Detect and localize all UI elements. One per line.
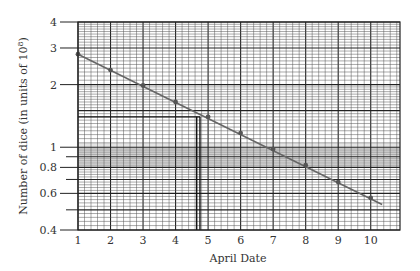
y-tick-label: 0.8 (40, 161, 58, 174)
y-tick-label: 1 (50, 141, 57, 154)
y-tick-label: 4 (50, 16, 57, 29)
data-series (76, 52, 383, 205)
data-point-marker (108, 68, 113, 73)
x-tick-label: 1 (75, 234, 82, 247)
data-point-marker (173, 100, 178, 105)
x-axis-title: April Date (208, 252, 266, 265)
data-point-marker (141, 83, 146, 88)
x-tick-label: 7 (270, 234, 277, 247)
x-tick-label: 9 (335, 234, 342, 247)
x-tick-label: 3 (140, 234, 147, 247)
data-point-marker (303, 163, 308, 168)
x-tick-label: 4 (172, 234, 179, 247)
dice-decay-chart: 43210.80.60.4 12345678910 April Date Num… (0, 0, 420, 271)
data-point-marker (271, 147, 276, 152)
plot-border (78, 22, 400, 230)
data-point-marker (368, 196, 373, 201)
shaded-band (78, 143, 400, 168)
data-point-marker (238, 131, 243, 136)
x-axis-ticks: 12345678910 (75, 234, 378, 247)
reference-lines (78, 117, 200, 230)
y-tick-label: 2 (50, 79, 57, 92)
y-tick-label: 0.4 (40, 224, 58, 237)
y-tick-label: 0.6 (40, 187, 58, 200)
x-tick-label: 8 (302, 234, 309, 247)
x-tick-label: 10 (364, 234, 378, 247)
x-tick-label: 2 (107, 234, 114, 247)
y-axis-title: Number of dice (in units of 108) (16, 37, 30, 215)
y-axis-ticks: 43210.80.60.4 (40, 16, 79, 237)
grid-lines (78, 22, 400, 230)
x-tick-label: 6 (237, 234, 244, 247)
plot-frame (78, 22, 400, 230)
shaded-band-rect (78, 143, 400, 168)
y-tick-label: 3 (50, 42, 57, 55)
data-point-marker (206, 114, 211, 119)
x-tick-label: 5 (205, 234, 212, 247)
data-point-marker (336, 180, 341, 185)
